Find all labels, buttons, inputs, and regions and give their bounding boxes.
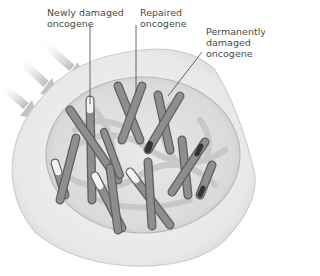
label-newly-damaged-oncogene: Newly damaged oncogene (47, 7, 124, 29)
label-repaired-oncogene: Repaired oncogene (140, 7, 187, 29)
label-permanently-damaged-oncogene: Permanently damaged oncogene (206, 26, 265, 59)
